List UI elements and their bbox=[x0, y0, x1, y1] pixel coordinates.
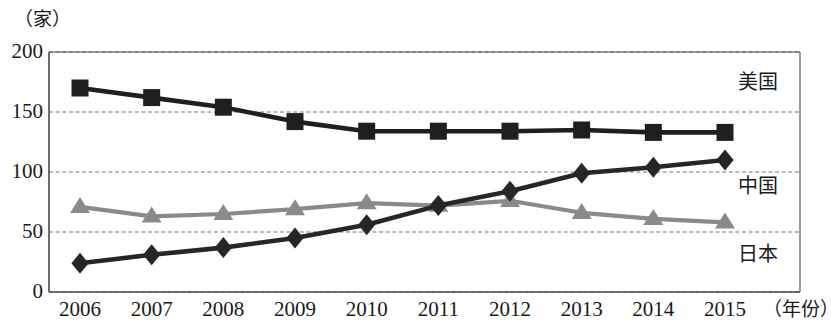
data-point-marker bbox=[645, 157, 662, 178]
series-label-china: 中国 bbox=[738, 176, 778, 196]
data-point-marker bbox=[71, 253, 88, 274]
data-point-marker bbox=[143, 244, 160, 265]
series-line-美国 bbox=[80, 88, 725, 132]
data-point-marker bbox=[72, 80, 89, 97]
series-label-japan: 日本 bbox=[738, 244, 778, 264]
data-point-marker bbox=[357, 193, 377, 209]
data-point-marker bbox=[143, 89, 160, 106]
data-point-marker bbox=[287, 113, 304, 130]
data-point-marker bbox=[501, 181, 518, 202]
data-point-marker bbox=[645, 124, 662, 141]
data-point-marker bbox=[358, 123, 375, 140]
x-axis-title: （年份） bbox=[763, 300, 831, 319]
data-point-marker bbox=[502, 123, 519, 140]
series-line-中国 bbox=[80, 160, 725, 263]
data-point-marker bbox=[573, 122, 590, 139]
data-point-marker bbox=[430, 195, 447, 216]
data-point-marker bbox=[716, 150, 733, 171]
data-point-marker bbox=[70, 197, 90, 213]
data-point-marker bbox=[286, 228, 303, 249]
data-point-marker bbox=[215, 237, 232, 258]
series-label-usa: 美国 bbox=[738, 72, 778, 92]
data-point-marker bbox=[573, 163, 590, 184]
data-point-marker bbox=[215, 99, 232, 116]
series-line-日本 bbox=[80, 201, 725, 223]
data-point-marker bbox=[430, 123, 447, 140]
data-point-marker bbox=[717, 124, 734, 141]
